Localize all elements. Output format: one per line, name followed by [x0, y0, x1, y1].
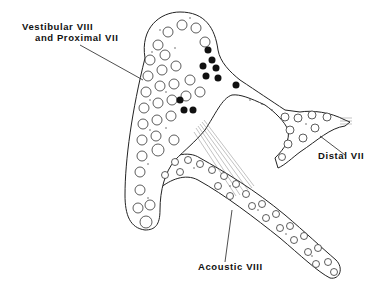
vestibular-leader-line: [80, 45, 143, 80]
acoustic-leader-line: [225, 210, 232, 262]
label-proximal-vii: and Proximal VII: [35, 32, 119, 43]
nerve-diagram: Vestibular VIII and Proximal VII Distal …: [0, 0, 387, 288]
label-vestibular-viii: Vestibular VIII: [22, 21, 93, 32]
label-acoustic-viii: Acoustic VIII: [198, 261, 263, 272]
label-distal-vii: Distal VII: [318, 150, 364, 161]
acoustic-viii-bundle: [144, 154, 341, 278]
